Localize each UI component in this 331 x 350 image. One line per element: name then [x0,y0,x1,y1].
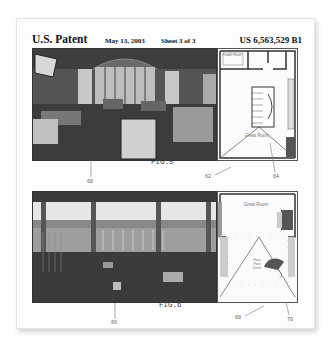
ref-69: 69 [235,315,241,321]
ref-60: 60 [87,179,93,185]
ref-62: 62 [205,174,211,180]
patent-sheet: U.S. Patent May 13, 2003 Sheet 3 of 3 US… [16,18,315,329]
room-label-great-room: Great Room [240,202,272,207]
room-label-rear-pool-deck: Rear Pool Deck [250,258,264,270]
fig6-pool-deck-photo [32,191,217,303]
fig6-floor-plan: Great Room Rear Pool Deck [217,191,298,303]
ref-66: 66 [111,320,117,326]
ref-64: 64 [273,174,279,180]
fig6-label: FIG.6 [159,301,182,309]
ref-70: 70 [287,317,293,323]
